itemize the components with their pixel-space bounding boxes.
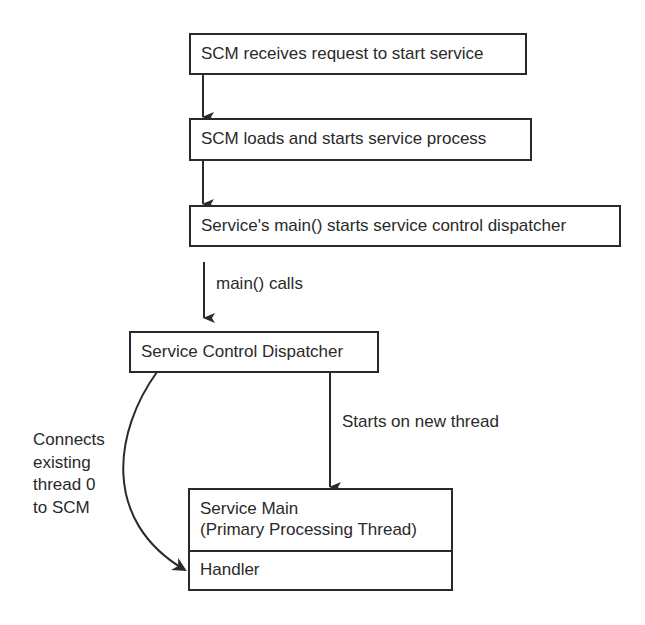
step-label: SCM receives request to start service (201, 44, 483, 64)
step-label: SCM loads and starts service process (201, 129, 486, 149)
handler-label: Handler (200, 560, 260, 580)
service-main-line2: (Primary Processing Thread) (200, 519, 417, 540)
arrow-connects-thread0 (123, 372, 185, 570)
connects-line: thread 0 (33, 474, 105, 497)
edge-label-starts-new-thread: Starts on new thread (342, 411, 499, 433)
step-box-receive-request: SCM receives request to start service (189, 33, 527, 75)
dispatcher-box: Service Control Dispatcher (129, 331, 379, 373)
handler-divider (190, 550, 451, 552)
connects-line: to SCM (33, 497, 105, 520)
connects-line: Connects (33, 429, 105, 452)
edge-label-main-calls: main() calls (216, 273, 303, 295)
service-main-box: Service Main (Primary Processing Thread)… (188, 488, 453, 591)
connects-line: existing (33, 452, 105, 475)
step-box-start-dispatcher: Service's main() starts service control … (189, 205, 621, 247)
step-box-load-process: SCM loads and starts service process (189, 118, 532, 161)
service-main-line1: Service Main (200, 498, 417, 519)
step-label: Service's main() starts service control … (201, 216, 566, 236)
service-main-title: Service Main (Primary Processing Thread) (200, 498, 417, 540)
edge-label-connects: Connects existing thread 0 to SCM (33, 429, 105, 519)
dispatcher-label: Service Control Dispatcher (141, 342, 343, 362)
